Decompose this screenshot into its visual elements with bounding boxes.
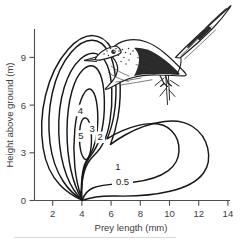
bird-illustration xyxy=(84,6,231,105)
contour-plot-figure: 0 3 6 9 2 4 6 8 10 12 14 Prey length (mm… xyxy=(0,0,244,240)
contour-label-0.5: 0.5 xyxy=(112,176,133,188)
contour-label-4: 4 xyxy=(76,105,86,117)
x-tick-label-6: 6 xyxy=(108,208,113,219)
plot-canvas: 0 3 6 9 2 4 6 8 10 12 14 Prey length (mm… xyxy=(0,0,244,240)
contour-label-1-text: 1 xyxy=(115,161,120,172)
x-tick-label-14: 14 xyxy=(223,208,234,219)
contour-label-5-text: 5 xyxy=(78,130,83,141)
y-axis-ticks xyxy=(30,57,35,200)
x-tick-label-2: 2 xyxy=(50,208,55,219)
contour-label-5: 5 xyxy=(76,130,86,142)
y-tick-label-6: 6 xyxy=(21,100,26,111)
x-axis-ticks xyxy=(53,201,228,206)
contour-label-2: 2 xyxy=(95,131,105,143)
y-tick-label-0: 0 xyxy=(21,195,26,206)
x-tick-label-10: 10 xyxy=(164,208,175,219)
y-axis-title: Height above ground (m) xyxy=(4,62,15,167)
contour-label-05-text: 0.5 xyxy=(116,176,129,187)
y-tick-label-9: 9 xyxy=(21,52,26,63)
contour-label-4-text: 4 xyxy=(78,105,83,116)
contour-label-3-text: 3 xyxy=(90,123,95,134)
x-tick-label-4: 4 xyxy=(79,208,84,219)
contour-label-1: 1 xyxy=(113,161,123,173)
y-tick-label-3: 3 xyxy=(21,147,26,158)
x-axis-title: Prey length (mm) xyxy=(95,222,168,233)
bird-eye-glint xyxy=(114,51,115,52)
x-tick-label-12: 12 xyxy=(193,208,204,219)
bird-tail-ink xyxy=(205,8,227,30)
contour-label-2-text: 2 xyxy=(98,131,103,142)
x-tick-label-8: 8 xyxy=(138,208,143,219)
bird-eye xyxy=(111,50,116,55)
bird-tail xyxy=(176,6,231,59)
